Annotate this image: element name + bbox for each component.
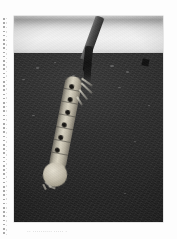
figure-photograph bbox=[14, 16, 163, 222]
figure-caption: ·· ·········· ····· · bbox=[27, 229, 147, 235]
dotted-margin-rule bbox=[3, 18, 5, 236]
dotted-margin-rule-secondary bbox=[6, 18, 7, 236]
debris-object bbox=[141, 58, 149, 66]
horizon-haze bbox=[14, 18, 163, 27]
photo-frame bbox=[14, 16, 163, 222]
scanned-page: ·· ·········· ····· · bbox=[0, 0, 177, 239]
